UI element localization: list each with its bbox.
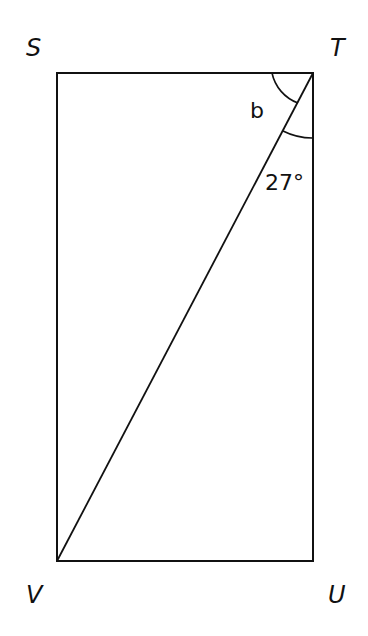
diagonal-tv [57, 73, 313, 561]
vertex-label-s: S [26, 34, 41, 62]
vertex-label-t: T [330, 34, 347, 62]
angle-label-27: 27° [265, 170, 304, 195]
geometry-diagram: S T V U b 27° [0, 0, 368, 636]
vertex-label-v: V [26, 581, 44, 609]
angle-label-b: b [250, 98, 264, 123]
vertex-label-u: U [328, 581, 346, 609]
angle-27-arc [283, 131, 313, 138]
angle-b-arc [272, 73, 298, 103]
